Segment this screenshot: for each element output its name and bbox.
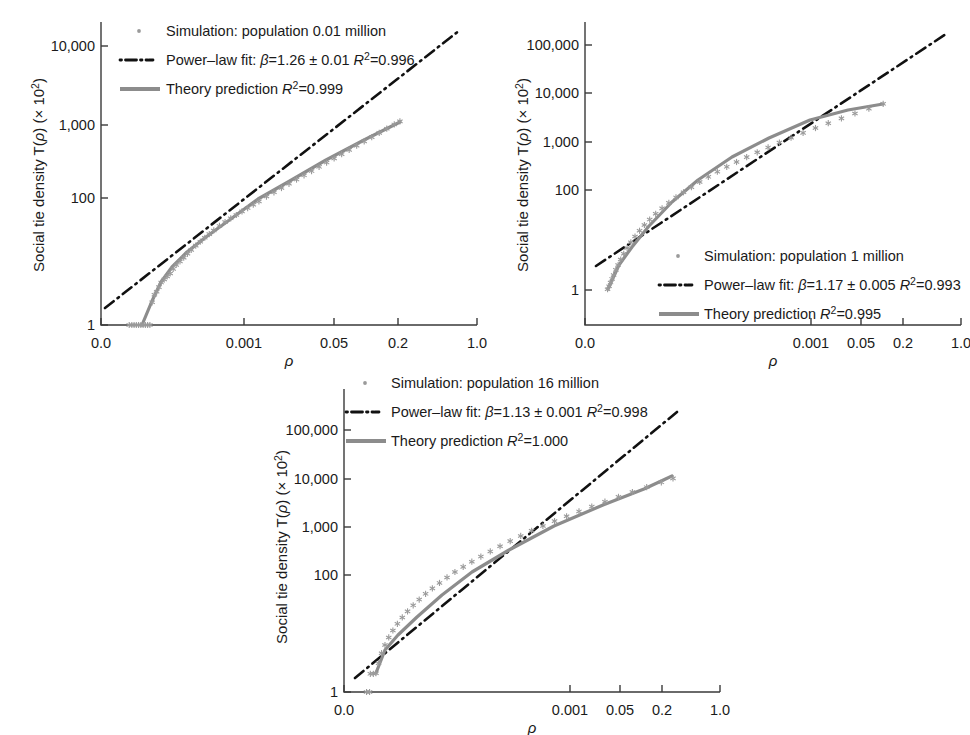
data-point-marker: [452, 569, 457, 575]
simulation-markers-panel-1: [127, 118, 403, 328]
x-tick-label: 0.05: [606, 702, 634, 718]
x-axis-title-panel-3: ρ: [527, 719, 537, 735]
power-law-fit-line-panel-1: [105, 30, 460, 308]
y-tick-marks-panel-3: [344, 430, 351, 692]
x-tick-label: 0.001: [226, 335, 262, 351]
y-tick-label: 1: [571, 282, 579, 298]
data-point-marker: [395, 621, 400, 627]
y-tick-label: 1,000: [59, 117, 95, 133]
y-axis-title-panel-1: Social tie density T(ρ) (× 102): [29, 78, 47, 272]
legend-label-theory-prediction: Theory prediction R2=1.000: [391, 431, 568, 449]
y-tick-marks-panel-1: [101, 46, 108, 325]
legend-label-simulation: Simulation: population 16 million: [391, 375, 599, 391]
y-tick-marks-panel-2: [585, 45, 592, 290]
data-point-marker: [518, 533, 523, 539]
legend-panel-3: Simulation: population 16 million Power–…: [346, 375, 648, 449]
legend-panel-1: Simulation: population 0.01 million Powe…: [120, 23, 415, 97]
x-tick-marks-panel-1: [101, 318, 477, 325]
legend-marker-sim-panel-3: [363, 381, 367, 385]
x-tick-label: 0.05: [320, 335, 348, 351]
y-tick-label: 1: [330, 684, 338, 700]
x-tick-marks-panel-3: [344, 685, 720, 692]
plot-area-panel-1: 1 100 1,000 10,000 0.0 0.001 0.05 0.2 1.…: [29, 22, 487, 369]
data-point-marker: [839, 115, 844, 121]
data-point-marker: [469, 559, 474, 565]
x-tick-label: 0.2: [388, 335, 408, 351]
legend-label-simulation: Simulation: population 1 million: [704, 248, 904, 264]
data-point-marker: [437, 580, 442, 586]
data-point-marker: [813, 125, 818, 131]
x-tick-label: 0.2: [652, 702, 672, 718]
theory-prediction-curve-panel-3: [376, 476, 672, 673]
y-tick-label: 100: [71, 190, 95, 206]
y-tick-label: 100: [555, 182, 579, 198]
x-tick-label: 0.0: [334, 702, 354, 718]
y-tick-label: 10,000: [51, 38, 95, 54]
data-point-marker: [386, 634, 391, 640]
x-axis-title-panel-2: ρ: [768, 352, 778, 369]
data-point-marker: [405, 608, 410, 614]
legend-label-power-law-fit: Power–law fit: β=1.26 ± 0.01 R2=0.996: [166, 50, 415, 68]
data-point-marker: [744, 154, 749, 160]
chart-panel-population-16-million: 1 100 1,000 10,000 100,000 0.0 0.001 0.0…: [241, 367, 729, 735]
legend-label-theory-prediction: Theory prediction R2=0.995: [704, 304, 881, 322]
data-point-marker: [400, 614, 405, 620]
data-point-marker: [461, 564, 466, 570]
data-point-marker: [368, 671, 373, 677]
data-point-marker: [734, 159, 739, 165]
data-point-marker: [390, 627, 395, 633]
legend-label-theory-prediction: Theory prediction R2=0.999: [166, 79, 343, 97]
x-tick-label: 0.2: [893, 335, 913, 351]
x-tick-label: 0.001: [793, 335, 829, 351]
data-point-marker: [508, 538, 513, 544]
simulation-markers-panel-3: [364, 475, 676, 695]
data-point-marker: [724, 164, 729, 170]
chart-panel-population-1-million: 1 100 1,000 10,000 100,000 0.0 0.001 0.0…: [482, 0, 970, 368]
x-tick-label: 1.0: [951, 335, 970, 351]
legend-marker-sim-panel-1: [137, 29, 141, 33]
y-tick-labels-panel-1: 1 100 1,000 10,000: [51, 38, 95, 333]
data-point-marker: [497, 543, 502, 549]
x-tick-labels-panel-3: 0.0 0.001 0.05 0.2 1.0: [334, 702, 730, 718]
y-axis-title-panel-3: Social tie density T(ρ) (× 102): [272, 450, 290, 644]
data-point-marker: [444, 574, 449, 580]
data-point-marker: [777, 139, 782, 145]
data-point-marker: [423, 591, 428, 597]
legend-label-power-law-fit: Power–law fit: β=1.13 ± 0.001 R2=0.998: [391, 402, 648, 420]
y-tick-label: 10,000: [294, 471, 338, 487]
x-tick-label: 0.0: [91, 335, 111, 351]
y-tick-label: 100,000: [286, 422, 338, 438]
data-point-marker: [430, 585, 435, 591]
x-tick-label: 0.001: [552, 702, 588, 718]
data-point-marker: [852, 110, 857, 116]
x-tick-label: 1.0: [710, 702, 730, 718]
data-point-marker: [417, 596, 422, 602]
data-point-marker: [478, 553, 483, 559]
legend-marker-sim-panel-2: [676, 254, 680, 258]
theory-prediction-curve-panel-1: [142, 122, 400, 325]
x-tick-label: 0.05: [847, 335, 875, 351]
x-tick-label: 0.0: [575, 335, 595, 351]
legend-label-power-law-fit: Power–law fit: β=1.17 ± 0.005 R2=0.993: [704, 275, 961, 293]
y-axis-title-panel-2: Social tie density T(ρ) (× 102): [513, 78, 531, 272]
y-tick-label: 1: [87, 317, 95, 333]
chart-panel-population-0-01-million: 1 100 1,000 10,000 0.0 0.001 0.05 0.2 1.…: [0, 0, 488, 368]
legend-panel-2: Simulation: population 1 million Power–l…: [659, 248, 961, 322]
x-tick-labels-panel-2: 0.0 0.001 0.05 0.2 1.0: [575, 335, 970, 351]
y-tick-labels-panel-3: 1 100 1,000 10,000 100,000: [286, 422, 338, 700]
y-tick-label: 1,000: [302, 519, 338, 535]
y-tick-label: 100,000: [527, 37, 579, 53]
data-point-marker: [826, 120, 831, 126]
y-tick-label: 1,000: [543, 134, 579, 150]
power-law-fit-line-panel-2: [596, 34, 946, 266]
legend-label-simulation: Simulation: population 0.01 million: [166, 23, 386, 39]
x-tick-labels-panel-1: 0.0 0.001 0.05 0.2 1.0: [91, 335, 487, 351]
data-point-marker: [800, 130, 805, 136]
y-tick-labels-panel-2: 1 100 1,000 10,000 100,000: [527, 37, 579, 298]
y-tick-label: 100: [314, 567, 338, 583]
data-point-marker: [755, 149, 760, 155]
data-point-marker: [488, 548, 493, 554]
y-tick-label: 10,000: [535, 85, 579, 101]
data-point-marker: [411, 602, 416, 608]
